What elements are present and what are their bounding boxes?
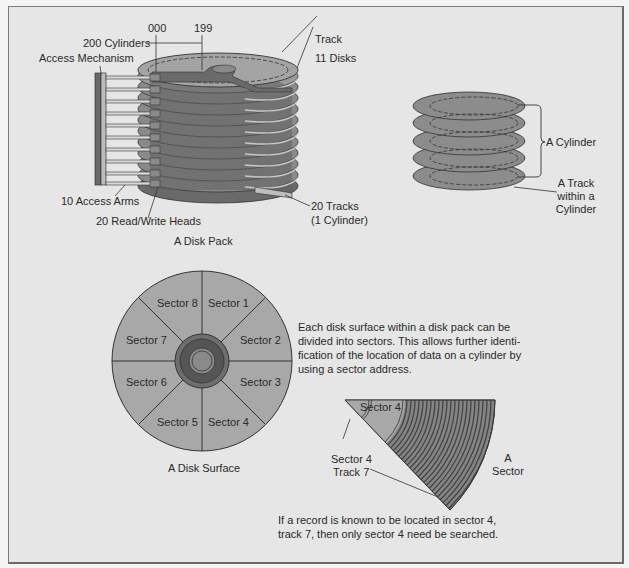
disk-stack [138,53,298,203]
disk-pack-title: A Disk Pack [174,235,233,248]
description-line-2: divided into sectors. This allows furthe… [298,334,558,348]
description-line-4: using a sector address. [298,362,558,376]
sector-5-label: Sector 5 [157,416,198,429]
label-a-cylinder: A Cylinder [546,136,596,149]
sector-7-label: Sector 7 [126,334,167,347]
description-line-3: fication of the location of data on a cy… [298,348,558,362]
label-cylinder-000: 000 [148,22,166,35]
disk-surface-graphic [112,271,292,451]
wedge-sector-4-label: Sector 4 [360,401,401,414]
label-cylinder: Cylinder [553,203,599,216]
label-200-cylinders: 200 Cylinders [83,37,150,50]
label-20-read-write-heads: 20 Read/Write Heads [96,215,201,228]
diagram-graphics [0,0,629,568]
caption-line-1: If a record is known to be located in se… [278,513,558,527]
label-1-cylinder: (1 Cylinder) [311,214,368,227]
side-label-a: A [488,452,528,465]
sector-6-label: Sector 6 [126,376,167,389]
sector-4-label: Sector 4 [208,416,249,429]
disk-surface-title: A Disk Surface [168,462,240,475]
cylinder-graphic [413,92,557,192]
label-a-track: A Track [556,177,596,190]
label-cylinder-199: 199 [194,22,212,35]
sector-1-label: Sector 1 [208,297,249,310]
label-10-access-arms: 10 Access Arms [61,195,139,208]
side-label-sector: Sector [485,465,531,478]
label-track: Track [315,33,342,46]
label-20-tracks: 20 Tracks [311,200,359,213]
caption-line-2: track 7, then only sector 4 need be sear… [278,527,558,541]
sector-3-label: Sector 3 [240,376,281,389]
sector-8-label: Sector 8 [157,297,198,310]
label-11-disks: 11 Disks [315,52,356,65]
description-line-1: Each disk surface within a disk pack can… [298,320,558,334]
sector-2-label: Sector 2 [240,334,281,347]
pointer-track-7: Track 7 [333,466,369,479]
sector-description: Each disk surface within a disk pack can… [298,320,558,376]
label-within-a: within a [556,190,596,203]
label-access-mechanism: Access Mechanism [39,52,134,65]
pointer-sector-4: Sector 4 [331,453,372,466]
sector-caption: If a record is known to be located in se… [278,513,558,541]
